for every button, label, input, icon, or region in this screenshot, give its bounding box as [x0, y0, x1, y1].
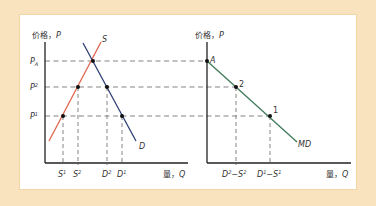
point-2: [234, 85, 238, 89]
point-S1: [61, 114, 65, 118]
tick-D2-minus-S2-label: D2−S2: [222, 169, 246, 179]
point-S2: [76, 85, 80, 89]
point-2-label: 2: [239, 80, 244, 89]
point-D2: [105, 85, 109, 89]
point-autarky: [91, 59, 95, 63]
point-1-label: 1: [273, 106, 278, 115]
left-x-axis-label: 量，Q: [163, 170, 185, 179]
import-demand-diagram: 价格，P S D PA P2 P1 S1 S2 D2 D1 量，Q 价格，P A…: [0, 0, 376, 206]
supply-curve: [49, 42, 101, 141]
supply-label: S: [102, 35, 107, 44]
tick-D1-label: D1: [117, 169, 126, 179]
demand-curve: [83, 43, 136, 141]
point-A: [205, 59, 209, 63]
price-P1-label: P1: [30, 111, 38, 121]
point-1: [268, 114, 272, 118]
tick-S2-label: S2: [73, 169, 81, 179]
point-A-label: A: [209, 56, 215, 65]
right-y-axis-label: 价格，P: [195, 30, 224, 40]
point-D1: [120, 114, 124, 118]
right-quantity-guides: [236, 87, 270, 165]
left-chart: 价格，P S D PA P2 P1 S1 S2 D2 D1 量，Q: [30, 30, 270, 179]
tick-D1-minus-S1-label: D1−S1: [257, 169, 281, 179]
demand-label: D: [139, 142, 145, 151]
md-label: MD: [298, 140, 311, 149]
right-chart: 价格，P A 2 1 MD D2−S2 D1−S1 量，Q: [195, 30, 351, 179]
tick-S1-label: S1: [58, 169, 66, 179]
price-PA-label: PA: [30, 57, 39, 67]
tick-D2-label: D2: [102, 169, 111, 179]
import-demand-curve: [207, 61, 297, 142]
right-x-axis-label: 量，Q: [326, 170, 348, 179]
left-y-axis-label: 价格，P: [32, 30, 61, 40]
price-P2-label: P2: [30, 82, 38, 92]
